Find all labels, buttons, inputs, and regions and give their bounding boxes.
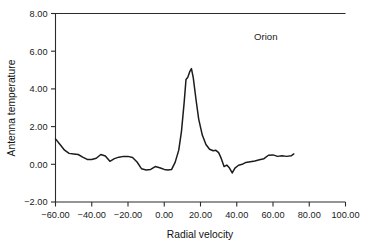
y-axis-ticks: −2.000.002.004.006.008.00 (24, 9, 55, 208)
annotation-orion: Orion (254, 31, 277, 42)
y-tick-label: 4.00 (30, 84, 48, 94)
x-tick-label: 20.00 (189, 210, 212, 220)
chart-figure: −2.000.002.004.006.008.00 −60.00−40.00−2… (0, 0, 371, 249)
x-tick-label: −40.00 (78, 210, 106, 220)
x-tick-label: 40.00 (225, 210, 248, 220)
x-tick-label: −20.00 (114, 210, 142, 220)
y-tick-label: 0.00 (30, 160, 48, 170)
spectrum-line-chart: −2.000.002.004.006.008.00 −60.00−40.00−2… (0, 0, 371, 249)
x-axis-ticks: −60.00−40.00−20.000.0020.0040.0060.0080.… (41, 202, 359, 220)
y-tick-label: 6.00 (30, 47, 48, 57)
x-tick-label: −60.00 (41, 210, 69, 220)
y-tick-label: 8.00 (30, 9, 48, 19)
x-tick-label: 80.00 (298, 210, 321, 220)
x-axis-title: Radial velocity (167, 229, 234, 240)
data-series-line (56, 69, 294, 173)
y-tick-label: −2.00 (24, 197, 47, 207)
y-tick-label: 2.00 (30, 122, 48, 132)
x-tick-label: 100.00 (331, 210, 359, 220)
x-tick-label: 60.00 (262, 210, 285, 220)
y-axis-title: Antenna temperature (6, 59, 17, 156)
x-tick-label: 0.00 (155, 210, 173, 220)
